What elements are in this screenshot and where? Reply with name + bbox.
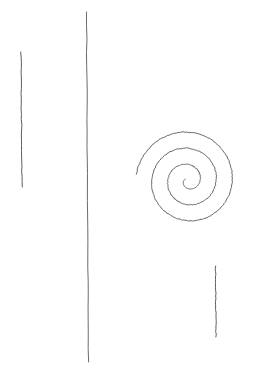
canvas-background [0, 0, 263, 374]
sketch-canvas [0, 0, 263, 374]
sketch-svg [0, 0, 263, 374]
